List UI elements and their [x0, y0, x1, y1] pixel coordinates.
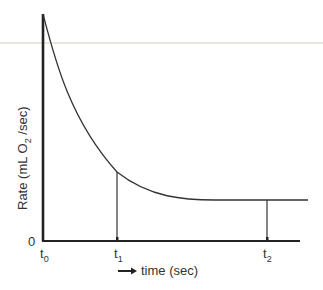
- t2-label: t2: [263, 246, 272, 264]
- t1-tick: [116, 237, 119, 241]
- rate-curve: [43, 14, 308, 200]
- y-axis-label: Rate (mL O2 /sec): [15, 106, 33, 210]
- rate-chart: 0 t0 t1 t2 time (sec) Rate (mL O2 /sec): [0, 0, 323, 290]
- x-axis-label: time (sec): [141, 263, 198, 278]
- t2-tick: [266, 237, 269, 241]
- arrow-head-icon: [131, 268, 137, 275]
- y-origin-label: 0: [28, 234, 35, 249]
- t0-label: t0: [40, 246, 49, 264]
- x-axis-title: time (sec): [118, 263, 198, 278]
- t1-label: t1: [114, 246, 123, 264]
